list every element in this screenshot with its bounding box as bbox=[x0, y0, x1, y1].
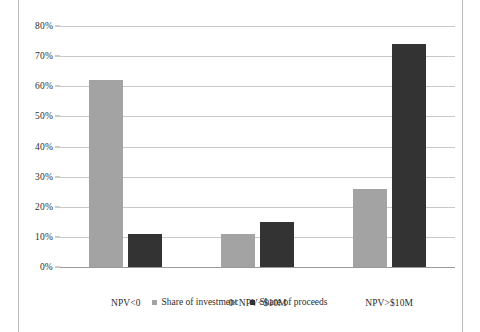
figure-left-border bbox=[18, 0, 19, 332]
y-axis-tick-mark bbox=[55, 116, 60, 117]
y-axis-tick-mark bbox=[55, 56, 60, 57]
y-axis-tick-label: 60% bbox=[35, 81, 53, 91]
legend-swatch-proceeds-icon bbox=[250, 300, 255, 305]
legend-label: Share of proceeds bbox=[259, 297, 327, 307]
y-axis-tick-label: 10% bbox=[35, 232, 53, 242]
plot-area: 80%70%60%50%40%30%20%10%0% NPV<00<NPV<$1… bbox=[60, 26, 455, 267]
legend-item: Share of proceeds bbox=[250, 297, 327, 307]
y-axis-tick-mark bbox=[55, 206, 60, 207]
y-axis-tick-label: 70% bbox=[35, 51, 53, 61]
y-axis-tick-mark bbox=[55, 176, 60, 177]
y-axis-tick-mark bbox=[55, 86, 60, 87]
gridline bbox=[60, 26, 455, 27]
axis-baseline bbox=[60, 267, 455, 268]
legend-label: Share of investment bbox=[161, 297, 237, 307]
y-axis-tick-mark bbox=[55, 267, 60, 268]
bar-proceeds bbox=[260, 222, 294, 267]
bar-investment bbox=[221, 234, 255, 267]
y-axis-tick-label: 40% bbox=[35, 142, 53, 152]
y-axis-tick-mark bbox=[55, 146, 60, 147]
legend-item: Share of investment bbox=[152, 297, 237, 307]
legend-swatch-investment-icon bbox=[152, 300, 157, 305]
y-axis-tick-mark bbox=[55, 26, 60, 27]
y-axis-tick-label: 20% bbox=[35, 202, 53, 212]
bar-proceeds bbox=[128, 234, 162, 267]
bar-proceeds bbox=[392, 44, 426, 267]
y-axis-tick-label: 30% bbox=[35, 172, 53, 182]
y-axis-tick-label: 80% bbox=[35, 21, 53, 31]
y-axis-tick-mark bbox=[55, 236, 60, 237]
y-axis-tick-label: 0% bbox=[40, 262, 53, 272]
y-axis-tick-label: 50% bbox=[35, 111, 53, 121]
figure-right-border bbox=[462, 0, 463, 332]
chart-legend: Share of investmentShare of proceeds bbox=[0, 297, 480, 307]
bar-investment bbox=[353, 189, 387, 267]
chart-figure: 80%70%60%50%40%30%20%10%0% NPV<00<NPV<$1… bbox=[0, 0, 480, 332]
bar-investment bbox=[89, 80, 123, 267]
